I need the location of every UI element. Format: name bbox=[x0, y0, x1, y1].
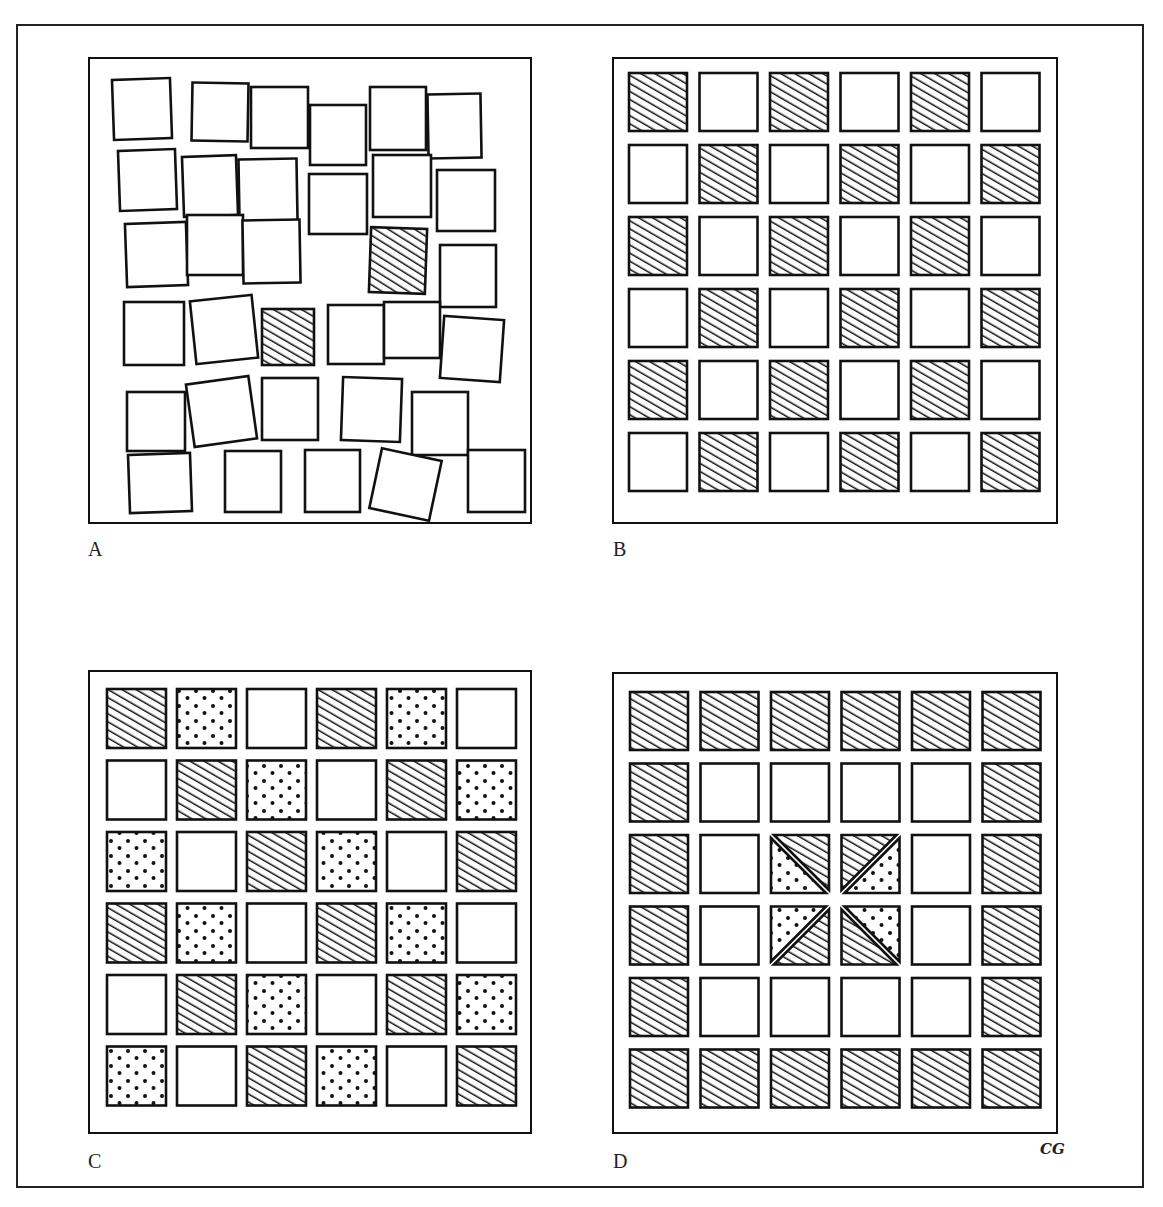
plain-square bbox=[771, 978, 829, 1036]
panel-c bbox=[88, 670, 532, 1134]
hatched-square bbox=[983, 978, 1041, 1036]
plain-square bbox=[107, 761, 166, 820]
plain-square bbox=[112, 78, 172, 140]
plain-square bbox=[437, 170, 495, 231]
plain-square bbox=[912, 978, 970, 1036]
plain-square bbox=[238, 158, 297, 221]
plain-square bbox=[341, 377, 402, 442]
dotted-square bbox=[387, 689, 446, 748]
plain-square bbox=[629, 289, 687, 347]
dotted-square bbox=[247, 761, 306, 820]
hatched-square bbox=[387, 975, 446, 1034]
plain-square bbox=[700, 361, 758, 419]
plain-square bbox=[242, 220, 300, 284]
dotted-square bbox=[177, 689, 236, 748]
hatched-square bbox=[770, 73, 828, 131]
plain-square bbox=[309, 174, 367, 234]
hatched-square bbox=[107, 904, 166, 963]
hatched-square bbox=[177, 761, 236, 820]
plain-square bbox=[841, 73, 899, 131]
hatched-square bbox=[911, 73, 969, 131]
hatched-square bbox=[177, 975, 236, 1034]
plain-square bbox=[190, 295, 258, 364]
hatched-square bbox=[842, 692, 900, 750]
hatched-square bbox=[317, 904, 376, 963]
hatched-square bbox=[700, 145, 758, 203]
plain-square bbox=[701, 764, 759, 822]
dotted-square bbox=[457, 975, 516, 1034]
hatched-square bbox=[247, 832, 306, 891]
plain-square bbox=[700, 217, 758, 275]
hatched-square bbox=[700, 433, 758, 491]
hatched-square bbox=[911, 217, 969, 275]
plain-square bbox=[771, 764, 829, 822]
hatched-square bbox=[457, 1047, 516, 1106]
hatched-square bbox=[771, 1050, 829, 1108]
plain-square bbox=[911, 145, 969, 203]
dotted-square bbox=[107, 832, 166, 891]
hatched-square bbox=[369, 227, 427, 294]
plain-square bbox=[305, 450, 360, 512]
plain-square bbox=[127, 392, 185, 451]
dotted-square bbox=[177, 904, 236, 963]
split-square bbox=[842, 907, 900, 965]
hatched-square bbox=[700, 289, 758, 347]
hatched-square bbox=[630, 835, 688, 893]
hatched-square bbox=[911, 361, 969, 419]
hatched-square bbox=[983, 835, 1041, 893]
plain-square bbox=[370, 87, 426, 150]
plain-square bbox=[124, 302, 184, 365]
plain-square bbox=[457, 904, 516, 963]
dotted-square bbox=[317, 832, 376, 891]
hatched-square bbox=[841, 433, 899, 491]
plain-square bbox=[182, 155, 238, 217]
hatched-square bbox=[983, 907, 1041, 965]
panel-label-b: B bbox=[613, 538, 626, 561]
panel-label-d: D bbox=[613, 1150, 627, 1173]
hatched-square bbox=[912, 1050, 970, 1108]
plain-square bbox=[427, 94, 481, 159]
plain-square bbox=[310, 105, 366, 165]
hatched-square bbox=[701, 1050, 759, 1108]
plain-square bbox=[125, 222, 188, 287]
plain-square bbox=[187, 215, 243, 275]
plain-square bbox=[440, 245, 496, 307]
hatched-square bbox=[317, 689, 376, 748]
hatched-square bbox=[983, 1050, 1041, 1108]
split-square bbox=[771, 907, 829, 965]
plain-square bbox=[317, 975, 376, 1034]
plain-square bbox=[262, 378, 318, 440]
plain-square bbox=[387, 832, 446, 891]
hatched-square bbox=[912, 692, 970, 750]
panel-a bbox=[88, 57, 532, 524]
plain-square bbox=[251, 87, 308, 148]
artist-signature: CG bbox=[1040, 1140, 1065, 1158]
hatched-square bbox=[387, 761, 446, 820]
dotted-square bbox=[107, 1047, 166, 1106]
hatched-square bbox=[770, 217, 828, 275]
plain-square bbox=[412, 392, 468, 455]
hatched-square bbox=[457, 832, 516, 891]
plain-square bbox=[842, 978, 900, 1036]
plain-square bbox=[841, 217, 899, 275]
plain-square bbox=[912, 907, 970, 965]
plain-square bbox=[369, 448, 441, 520]
split-square bbox=[771, 835, 829, 893]
plain-square bbox=[912, 835, 970, 893]
plain-square bbox=[384, 302, 440, 358]
hatched-square bbox=[841, 289, 899, 347]
plain-square bbox=[701, 835, 759, 893]
plain-square bbox=[328, 305, 384, 364]
plain-square bbox=[440, 316, 504, 382]
panel-d bbox=[612, 672, 1058, 1134]
hatched-square bbox=[982, 289, 1040, 347]
hatched-square bbox=[630, 764, 688, 822]
plain-square bbox=[177, 832, 236, 891]
panel-b bbox=[612, 57, 1058, 524]
plain-square bbox=[118, 149, 177, 211]
plain-square bbox=[841, 361, 899, 419]
plain-square bbox=[842, 764, 900, 822]
hatched-square bbox=[983, 764, 1041, 822]
plain-square bbox=[701, 907, 759, 965]
plain-square bbox=[468, 450, 525, 512]
